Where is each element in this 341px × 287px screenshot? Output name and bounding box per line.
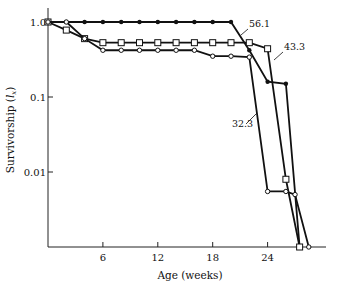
data-point bbox=[229, 20, 233, 24]
data-point bbox=[265, 46, 271, 52]
x-axis-label: Age (weeks) bbox=[156, 269, 222, 281]
annotation-label: 43.3 bbox=[284, 41, 305, 52]
data-point bbox=[192, 20, 196, 24]
data-point bbox=[247, 48, 251, 52]
data-point bbox=[284, 189, 288, 193]
survivorship-chart: 1.00.10.01 6121824 56.143.332.3 Age (wee… bbox=[0, 0, 341, 287]
x-ticks: 6121824 bbox=[100, 242, 274, 263]
data-point bbox=[191, 40, 197, 46]
y-tick-label: 0.01 bbox=[24, 167, 46, 178]
data-point bbox=[229, 54, 233, 58]
y-tick-label: 0.1 bbox=[30, 92, 46, 103]
series-56-1 bbox=[46, 20, 302, 249]
x-tick-label: 18 bbox=[206, 252, 219, 263]
data-point bbox=[210, 40, 216, 46]
data-point bbox=[137, 40, 143, 46]
data-point bbox=[293, 192, 297, 196]
data-point bbox=[192, 48, 196, 52]
data-point bbox=[82, 20, 86, 24]
y-axis-label: Survivorship (lx) bbox=[4, 87, 18, 174]
data-point bbox=[174, 20, 178, 24]
series-line bbox=[48, 22, 300, 247]
data-point bbox=[228, 40, 234, 46]
data-point bbox=[247, 55, 251, 59]
data-point bbox=[137, 48, 141, 52]
series-group bbox=[45, 19, 311, 250]
annotation-leader bbox=[241, 29, 248, 35]
data-point bbox=[100, 40, 106, 46]
data-point bbox=[174, 48, 178, 52]
data-point bbox=[307, 245, 311, 249]
data-point bbox=[101, 20, 105, 24]
annotation-leader bbox=[274, 52, 283, 60]
data-point bbox=[156, 48, 160, 52]
series-line bbox=[48, 22, 309, 247]
data-point bbox=[283, 176, 289, 182]
annotation-label: 56.1 bbox=[249, 18, 270, 29]
y-tick-label: 1.0 bbox=[30, 17, 46, 28]
x-tick-label: 6 bbox=[100, 252, 106, 263]
y-axis-label-close: ) bbox=[4, 87, 16, 91]
x-tick-label: 24 bbox=[261, 252, 274, 263]
series-32-3 bbox=[46, 20, 311, 249]
data-point bbox=[211, 54, 215, 58]
data-point bbox=[246, 40, 252, 46]
data-point bbox=[156, 20, 160, 24]
data-point bbox=[284, 82, 288, 86]
data-point bbox=[137, 20, 141, 24]
data-point bbox=[46, 20, 50, 24]
data-point bbox=[173, 40, 179, 46]
data-point bbox=[101, 48, 105, 52]
data-point bbox=[64, 20, 68, 24]
data-point bbox=[63, 27, 69, 33]
series-43-3 bbox=[45, 19, 303, 250]
data-point bbox=[265, 79, 269, 83]
annotations: 56.143.332.3 bbox=[232, 18, 305, 129]
data-point bbox=[265, 189, 269, 193]
y-ticks: 1.00.10.01 bbox=[24, 17, 53, 178]
annotation-label: 32.3 bbox=[232, 118, 253, 129]
y-axis-label-main: Survivorship ( bbox=[4, 98, 16, 173]
data-point bbox=[118, 40, 124, 46]
data-point bbox=[119, 20, 123, 24]
data-point bbox=[82, 36, 86, 40]
data-point bbox=[155, 40, 161, 46]
data-point bbox=[119, 48, 123, 52]
series-line bbox=[48, 22, 300, 247]
data-point bbox=[211, 20, 215, 24]
data-point bbox=[297, 244, 303, 250]
x-tick-label: 12 bbox=[151, 252, 164, 263]
